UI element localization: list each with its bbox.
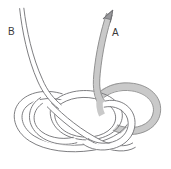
knot-strand-group [14, 8, 160, 152]
strand-label-a: A [112, 28, 119, 38]
knot-diagram: B A [0, 0, 171, 169]
gray-strand-entry-to-loop [100, 99, 102, 115]
strand-label-b: B [8, 27, 15, 37]
knot-illustration [0, 0, 171, 169]
